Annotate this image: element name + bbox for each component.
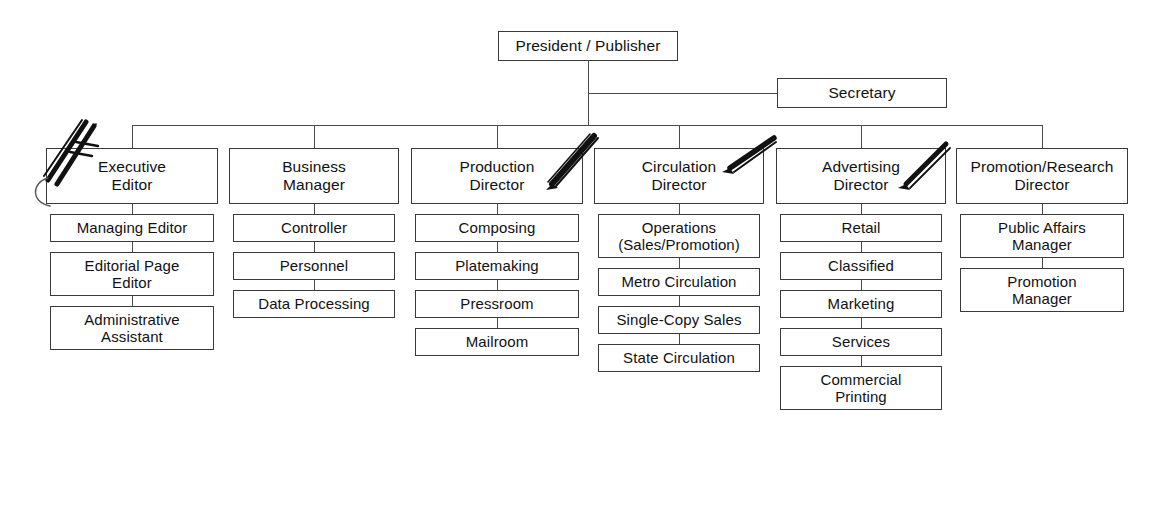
node-advertising-director[interactable]: Advertising Director [776, 148, 946, 204]
node-state-circulation[interactable]: State Circulation [598, 344, 760, 372]
node-circulation-director[interactable]: Circulation Director [594, 148, 764, 204]
connector-bus-to-business-manager [314, 125, 315, 148]
node-marketing[interactable]: Marketing [780, 290, 942, 318]
node-label: Mailroom [462, 333, 532, 350]
node-label: Data Processing [254, 295, 374, 312]
node-label: Administrative Assistant [80, 311, 184, 346]
connector-circulation-director-to-operations-sales-promotion [679, 204, 680, 214]
node-label: Executive Editor [94, 158, 170, 194]
node-label: Composing [455, 219, 540, 236]
node-label: State Circulation [619, 349, 739, 366]
node-public-affairs-manager[interactable]: Public Affairs Manager [960, 214, 1124, 258]
node-promotion-research-director[interactable]: Promotion/Research Director [956, 148, 1128, 204]
node-promotion-manager[interactable]: Promotion Manager [960, 268, 1124, 312]
node-label: Production Director [455, 158, 538, 194]
node-pressroom[interactable]: Pressroom [415, 290, 579, 318]
node-label: Metro Circulation [617, 273, 740, 290]
node-single-copy-sales[interactable]: Single-Copy Sales [598, 306, 760, 334]
node-label: Promotion/Research Director [966, 158, 1117, 194]
node-retail[interactable]: Retail [780, 214, 942, 242]
node-president-publisher[interactable]: President / Publisher [498, 31, 678, 61]
node-label: Public Affairs Manager [994, 219, 1090, 254]
connector-advertising-director-to-services [861, 318, 862, 328]
node-label: Retail [838, 219, 885, 236]
connector-executive-editor-to-editorial-page-editor [132, 242, 133, 252]
node-label: Operations (Sales/Promotion) [614, 219, 744, 254]
connector-production-director-to-platemaking [497, 242, 498, 252]
connector-business-manager-to-controller [314, 204, 315, 214]
connector-advertising-director-to-commercial-printing [861, 356, 862, 366]
node-data-processing[interactable]: Data Processing [233, 290, 395, 318]
node-label: Controller [277, 219, 351, 236]
connector-business-manager-to-personnel [314, 242, 315, 252]
node-label: Secretary [824, 84, 899, 102]
node-executive-editor[interactable]: Executive Editor [46, 148, 218, 204]
connector-executive-editor-to-managing-editor [132, 204, 133, 214]
connector-circulation-director-to-metro-circulation [679, 258, 680, 268]
node-business-manager[interactable]: Business Manager [229, 148, 399, 204]
node-label: Promotion Manager [1003, 273, 1080, 308]
node-label: Services [828, 333, 894, 350]
connector-bus-to-advertising-director [861, 125, 862, 148]
node-label: Single-Copy Sales [612, 311, 745, 328]
node-administrative-assistant[interactable]: Administrative Assistant [50, 306, 214, 350]
connector-advertising-director-to-classified [861, 242, 862, 252]
node-label: Marketing [824, 295, 899, 312]
node-metro-circulation[interactable]: Metro Circulation [598, 268, 760, 296]
node-editorial-page-editor[interactable]: Editorial Page Editor [50, 252, 214, 296]
connector-executive-editor-to-administrative-assistant [132, 296, 133, 306]
connector-department-bus [132, 125, 1042, 126]
node-managing-editor[interactable]: Managing Editor [50, 214, 214, 242]
org-chart: President / Publisher Secretary Executiv… [0, 0, 1163, 524]
node-platemaking[interactable]: Platemaking [415, 252, 579, 280]
node-label: Advertising Director [818, 158, 904, 194]
node-label: Platemaking [451, 257, 543, 274]
node-personnel[interactable]: Personnel [233, 252, 395, 280]
node-operations-sales-promotion[interactable]: Operations (Sales/Promotion) [598, 214, 760, 258]
connector-production-director-to-mailroom [497, 318, 498, 328]
connector-production-director-to-composing [497, 204, 498, 214]
node-label: Managing Editor [73, 219, 192, 236]
node-label: Editorial Page Editor [81, 257, 184, 292]
node-label: Pressroom [456, 295, 537, 312]
node-production-director[interactable]: Production Director [411, 148, 583, 204]
connector-bus-to-executive-editor [132, 125, 133, 148]
node-label: Circulation Director [638, 158, 720, 194]
node-label: Personnel [276, 257, 352, 274]
connector-circulation-director-to-state-circulation [679, 334, 680, 344]
connector-root-to-secretary [588, 93, 778, 94]
node-mailroom[interactable]: Mailroom [415, 328, 579, 356]
connector-bus-to-promotion-research-director [1042, 125, 1043, 148]
connector-production-director-to-pressroom [497, 280, 498, 290]
connector-promotion-research-director-to-promotion-manager [1042, 258, 1043, 268]
node-classified[interactable]: Classified [780, 252, 942, 280]
connector-bus-to-production-director [497, 125, 498, 148]
node-label: President / Publisher [511, 37, 664, 55]
connector-business-manager-to-data-processing [314, 280, 315, 290]
connector-circulation-director-to-single-copy-sales [679, 296, 680, 306]
node-services[interactable]: Services [780, 328, 942, 356]
connector-promotion-research-director-to-public-affairs-manager [1042, 204, 1043, 214]
node-composing[interactable]: Composing [415, 214, 579, 242]
connector-advertising-director-to-marketing [861, 280, 862, 290]
connector-bus-to-circulation-director [679, 125, 680, 148]
node-commercial-printing[interactable]: Commercial Printing [780, 366, 942, 410]
node-controller[interactable]: Controller [233, 214, 395, 242]
node-label: Business Manager [278, 158, 350, 194]
node-label: Classified [824, 257, 898, 274]
node-secretary[interactable]: Secretary [777, 78, 947, 108]
node-label: Commercial Printing [816, 371, 905, 406]
connector-advertising-director-to-retail [861, 204, 862, 214]
